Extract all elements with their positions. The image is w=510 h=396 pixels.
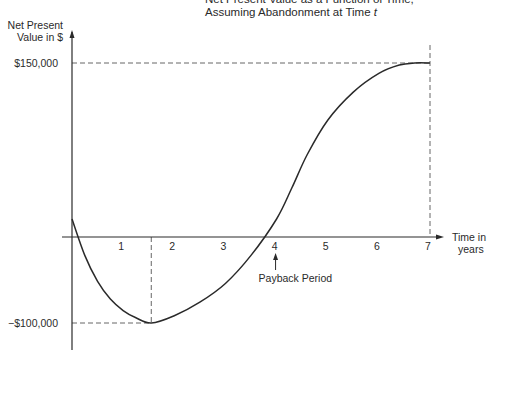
- title-line-2-text: Assuming Abandonment at Time: [205, 6, 374, 18]
- y-axis-label-line-1: Net Present: [8, 19, 64, 31]
- x-tick-label: 5: [323, 240, 329, 252]
- x-tick-labels: 1234567: [118, 240, 431, 252]
- npv-series-line: [72, 63, 430, 323]
- chart-title: Net Present Value as a Function of Time,…: [205, 0, 414, 18]
- x-tick-label: 2: [169, 240, 175, 252]
- x-axis-label-line-1: Time in: [452, 231, 486, 243]
- annotation-arrow-icon: [273, 253, 278, 260]
- annotation-label: Payback Period: [259, 272, 333, 284]
- y-axis-label-line-2: Value in $: [17, 31, 63, 43]
- title-variable: t: [374, 6, 378, 18]
- x-axis-label-line-2: years: [458, 243, 484, 255]
- x-tick-label: 3: [221, 240, 227, 252]
- payback-annotation: Payback Period: [259, 253, 333, 284]
- x-tick-label: 7: [425, 240, 431, 252]
- npv-chart: Net Present Value as a Function of Time,…: [0, 0, 510, 396]
- y-tick-labels: $150,000−$100,000: [8, 57, 58, 329]
- y-axis-arrow-icon: [70, 30, 75, 38]
- x-tick-label: 4: [272, 240, 278, 252]
- y-tick-label: $150,000: [14, 57, 58, 69]
- y-tick-label: −$100,000: [8, 317, 58, 329]
- title-line-2: Assuming Abandonment at Time t: [205, 6, 378, 18]
- x-tick-label: 1: [118, 240, 124, 252]
- reference-lines: [72, 45, 430, 323]
- x-tick-label: 6: [374, 240, 380, 252]
- x-axis-arrow-icon: [436, 235, 444, 240]
- title-line-1: Net Present Value as a Function of Time,: [205, 0, 414, 5]
